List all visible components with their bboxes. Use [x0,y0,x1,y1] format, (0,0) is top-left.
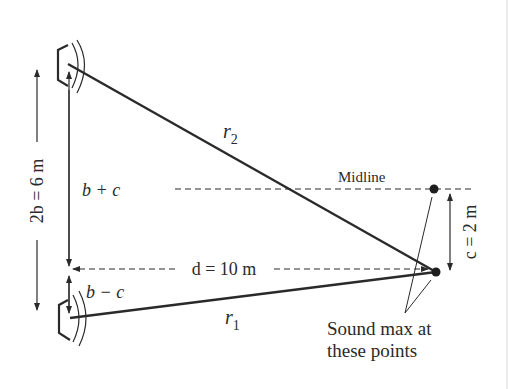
interference-diagram: 2b = 6 m b + c b − c d = 10 m Midline c … [0,0,508,389]
label-b-plus-c: b + c [82,180,120,200]
max-point-listener [432,268,441,277]
note-sound-max: Sound max at these points [327,318,436,361]
label-r2: r2 [223,120,238,147]
label-d: d = 10 m [192,259,257,279]
pointer-lines [405,197,432,313]
path-r2 [68,64,436,272]
label-2b: 2b = 6 m [27,159,47,224]
label-b-minus-c: b − c [86,282,124,302]
label-c: c = 2 m [460,205,480,260]
label-midline: Midline [338,169,386,185]
max-point-midline [430,185,439,194]
label-r1: r1 [225,306,240,333]
